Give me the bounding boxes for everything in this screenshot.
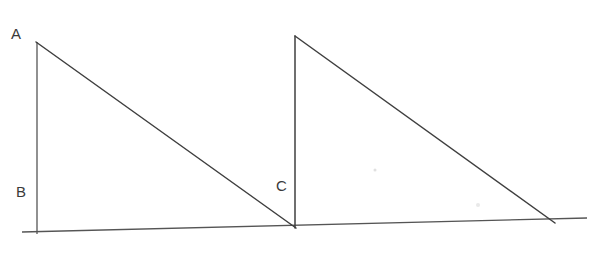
triangle-abc — [36, 42, 296, 234]
segment-ac — [36, 42, 296, 228]
diagram-canvas: A B C — [0, 0, 594, 255]
baseline — [22, 218, 587, 232]
triangle-second — [295, 36, 555, 228]
label-b: B — [16, 183, 26, 200]
scan-artifacts — [374, 169, 481, 208]
label-a: A — [11, 25, 21, 42]
segment-second-hypotenuse — [295, 36, 555, 223]
label-c: C — [276, 177, 287, 194]
